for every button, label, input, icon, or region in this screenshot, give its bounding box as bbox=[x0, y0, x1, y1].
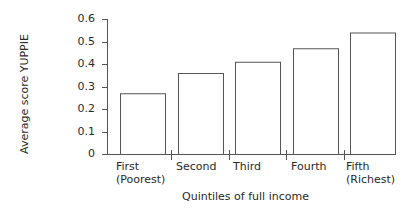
x-category-label: Second bbox=[176, 160, 216, 173]
y-tick-label: 0.4 bbox=[65, 57, 95, 70]
x-category-label: Fourth bbox=[291, 160, 326, 173]
bar bbox=[179, 74, 224, 155]
x-category-label: Third bbox=[233, 160, 261, 173]
y-tick-label: 0.2 bbox=[65, 102, 95, 115]
bar bbox=[121, 94, 166, 155]
bar bbox=[351, 33, 396, 155]
x-axis-title: Quintiles of full income bbox=[182, 190, 309, 203]
y-axis-title: Average score YUPPIE bbox=[18, 34, 31, 154]
bar bbox=[236, 62, 281, 154]
y-tick-label: 0 bbox=[65, 147, 95, 160]
y-tick-label: 0.6 bbox=[65, 12, 95, 25]
y-tick-label: 0.3 bbox=[65, 80, 95, 93]
y-tick-label: 0.5 bbox=[65, 35, 95, 48]
x-category-label: First(Poorest) bbox=[116, 160, 165, 186]
bar-chart: Average score YUPPIE 00.10.20.30.40.50.6… bbox=[0, 0, 408, 209]
y-tick-label: 0.1 bbox=[65, 125, 95, 138]
bar bbox=[294, 49, 339, 155]
x-category-label: Fifth(Richest) bbox=[346, 160, 395, 186]
